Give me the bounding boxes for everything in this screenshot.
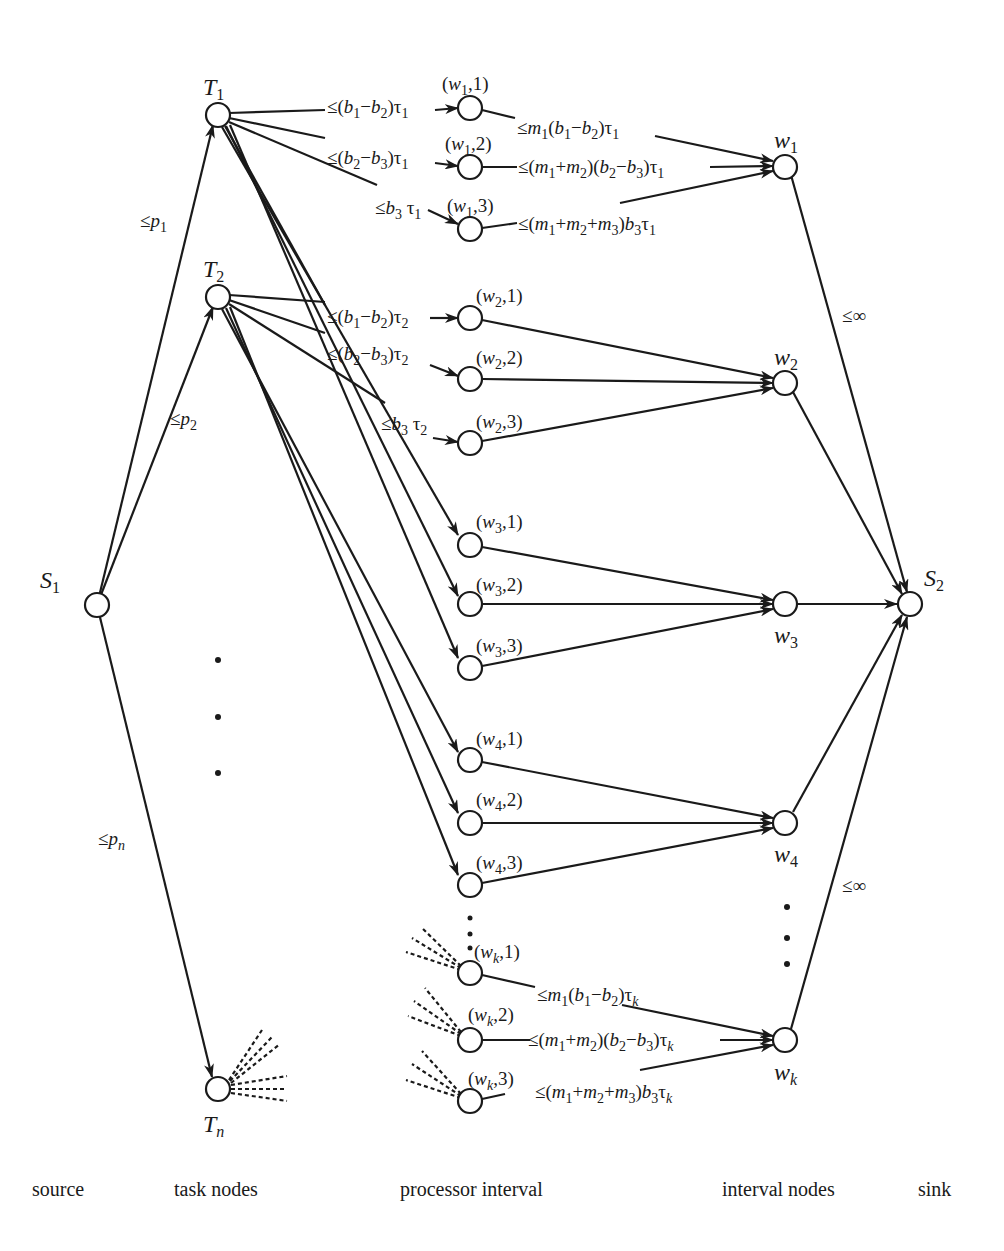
- node-s1: [85, 593, 109, 617]
- svg-text:≤∞: ≤∞: [842, 305, 866, 326]
- node-w2-2: [458, 367, 482, 391]
- svg-text:(w3,3): (w3,3): [476, 635, 523, 660]
- svg-text:(w4,3): (w4,3): [476, 852, 523, 877]
- svg-text:(w3,2): (w3,2): [476, 574, 523, 599]
- node-w1-3: [458, 217, 482, 241]
- node-wk: [773, 1028, 797, 1052]
- caption-sink: sink: [918, 1178, 951, 1200]
- svg-text:≤(m1+m2)(b2−b3)τ1: ≤(m1+m2)(b2−b3)τ1: [518, 156, 664, 181]
- node-w1: [773, 155, 797, 179]
- svg-text:≤∞: ≤∞: [842, 875, 866, 896]
- node-wk-2: [458, 1028, 482, 1052]
- svg-text:w3: w3: [774, 622, 798, 651]
- node-w4: [773, 811, 797, 835]
- node-w2-1: [458, 306, 482, 330]
- svg-text:≤b3 τ1: ≤b3 τ1: [375, 197, 421, 222]
- svg-text:(w2,1): (w2,1): [476, 285, 523, 310]
- svg-text:w4: w4: [774, 841, 798, 870]
- node-wk-3: [458, 1089, 482, 1113]
- caption-task-nodes: task nodes: [174, 1178, 258, 1200]
- svg-text:(w2,3): (w2,3): [476, 411, 523, 436]
- svg-text:≤(b1−b2)τ2: ≤(b1−b2)τ2: [327, 306, 408, 331]
- ellipsis-dots: [215, 657, 790, 967]
- svg-text:Tn: Tn: [203, 1111, 224, 1140]
- node-w2: [773, 371, 797, 395]
- svg-text:≤pn: ≤pn: [98, 828, 125, 853]
- svg-text:S2: S2: [924, 565, 944, 594]
- svg-text:≤(m1+m2)(b2−b3)τk: ≤(m1+m2)(b2−b3)τk: [528, 1029, 674, 1054]
- svg-text:≤(b1−b2)τ1: ≤(b1−b2)τ1: [327, 96, 408, 121]
- svg-text:(wk,2): (wk,2): [468, 1004, 514, 1029]
- node-w4-1: [458, 748, 482, 772]
- sink-edges: [791, 175, 907, 1029]
- svg-text:≤(m1+m2+m3)b3τ1: ≤(m1+m2+m3)b3τ1: [518, 213, 656, 238]
- node-labels: S1 T1 T2 Tn S2 w1 w2 w3 w4 wk (w1,1) (w1…: [40, 73, 944, 1140]
- svg-text:(w4,2): (w4,2): [476, 789, 523, 814]
- node-s2: [898, 592, 922, 616]
- svg-text:w1: w1: [774, 127, 798, 156]
- node-tn: [206, 1077, 230, 1101]
- caption-source: source: [32, 1178, 84, 1200]
- column-captions: source task nodes processor interval int…: [32, 1178, 951, 1201]
- node-w3: [773, 592, 797, 616]
- node-w2-3: [458, 431, 482, 455]
- flow-network-diagram: S1 T1 T2 Tn S2 w1 w2 w3 w4 wk (w1,1) (w1…: [0, 0, 1004, 1251]
- svg-text:≤b3 τ2: ≤b3 τ2: [381, 413, 427, 438]
- node-w3-3: [458, 656, 482, 680]
- svg-text:(w4,1): (w4,1): [476, 728, 523, 753]
- interval-edges: [482, 110, 773, 1099]
- svg-text:(w3,1): (w3,1): [476, 511, 523, 536]
- node-t2: [206, 285, 230, 309]
- svg-text:T1: T1: [203, 74, 224, 103]
- svg-text:(wk,1): (wk,1): [474, 941, 520, 966]
- caption-processor-interval: processor interval: [400, 1178, 543, 1201]
- svg-text:(w2,2): (w2,2): [476, 347, 523, 372]
- node-w4-3: [458, 873, 482, 897]
- svg-text:≤(b2−b3)τ2: ≤(b2−b3)τ2: [327, 343, 408, 368]
- node-w3-1: [458, 533, 482, 557]
- svg-text:wk: wk: [774, 1059, 798, 1088]
- node-w1-1: [458, 96, 482, 120]
- source-edges: [97, 125, 213, 1077]
- svg-text:w2: w2: [774, 344, 798, 373]
- node-w4-2: [458, 811, 482, 835]
- svg-text:(w1,1): (w1,1): [442, 73, 489, 98]
- svg-text:T2: T2: [203, 256, 224, 285]
- caption-interval-nodes: interval nodes: [722, 1178, 835, 1200]
- node-t1: [206, 103, 230, 127]
- svg-text:≤p1: ≤p1: [140, 210, 167, 235]
- node-w1-2: [458, 155, 482, 179]
- t1-edges: [222, 108, 458, 658]
- svg-text:S1: S1: [40, 567, 60, 596]
- svg-text:(w1,3): (w1,3): [447, 195, 494, 220]
- svg-text:≤p2: ≤p2: [170, 408, 197, 433]
- svg-text:≤(m1+m2+m3)b3τk: ≤(m1+m2+m3)b3τk: [535, 1081, 673, 1106]
- dashed-edges: [229, 928, 461, 1101]
- node-w3-2: [458, 592, 482, 616]
- node-wk-1: [458, 961, 482, 985]
- svg-text:(w1,2): (w1,2): [445, 133, 492, 158]
- svg-text:≤m1(b1−b2)τ1: ≤m1(b1−b2)τ1: [517, 117, 619, 142]
